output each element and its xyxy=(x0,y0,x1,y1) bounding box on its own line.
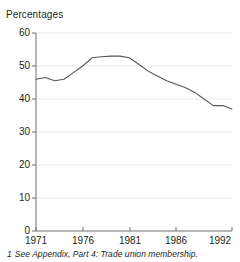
x-tick-1986: 1986 xyxy=(156,236,196,246)
y-tick-40: 40 xyxy=(4,94,30,104)
y-axis-title: Percentages xyxy=(6,9,63,20)
plot-area: 60 50 40 30 20 10 0 1971 1976 1981 1986 … xyxy=(0,24,240,236)
x-tick-1992: 1992 xyxy=(200,236,240,246)
y-tick-10: 10 xyxy=(4,193,30,203)
data-series-trade-union-membership xyxy=(36,56,232,109)
footnote-marker: 1 xyxy=(7,249,12,259)
y-tick-60: 60 xyxy=(4,28,30,38)
x-tick-1981: 1981 xyxy=(110,236,150,246)
x-tick-1976: 1976 xyxy=(63,236,103,246)
footnote-text: See Appendix, Part 4: Trade union member… xyxy=(15,249,198,259)
plot-svg xyxy=(0,24,240,236)
y-tick-20: 20 xyxy=(4,160,30,170)
y-tick-50: 50 xyxy=(4,61,30,71)
footnote: 1See Appendix, Part 4: Trade union membe… xyxy=(7,249,198,259)
x-tick-1971: 1971 xyxy=(16,236,56,246)
y-axis-line xyxy=(32,33,36,231)
x-axis-line xyxy=(36,227,232,231)
trade-union-membership-chart: Percentages xyxy=(0,0,240,262)
y-tick-30: 30 xyxy=(4,127,30,137)
gridlines xyxy=(36,33,232,198)
